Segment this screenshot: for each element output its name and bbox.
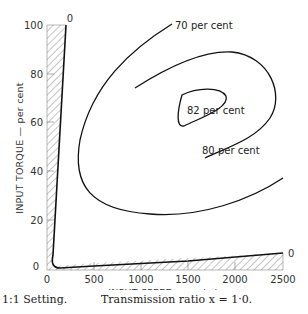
caption-setting: 1:1 Setting. xyxy=(2,293,67,306)
contour-70 xyxy=(78,24,283,215)
contour-label-82: 82 per cent xyxy=(187,105,245,116)
x-tick-label: 2000 xyxy=(222,274,247,285)
y-tick-label: 60 xyxy=(30,117,43,128)
x-tick-label: 2500 xyxy=(270,274,295,285)
contour-label-0-right: 0 xyxy=(288,248,294,259)
y-tick-label: 100 xyxy=(24,20,43,31)
caption-transmission-ratio: Transmission ratio x = 1·0. xyxy=(101,293,252,306)
efficiency-contour-chart: 100 80 60 40 20 0 0 500 1000 1500 2000 2… xyxy=(0,0,308,290)
x-tick-label: 500 xyxy=(84,274,103,285)
y-tick-label: 40 xyxy=(30,166,43,177)
x-axis-title: INPUT SPEED —rev/min xyxy=(108,287,223,290)
x-tick-label: 1500 xyxy=(175,274,200,285)
x-tick-labels: 0 500 1000 1500 2000 2500 xyxy=(44,274,296,285)
y-axis-title: INPUT TORQUE — per cent xyxy=(14,82,25,214)
contour-label-0-top: 0 xyxy=(67,13,73,24)
y-tick-labels: 100 80 60 40 20 0 xyxy=(24,20,43,272)
y-tick-label: 80 xyxy=(30,69,43,80)
contour-label-80: 80 per cent xyxy=(202,145,260,156)
x-tick-label: 1000 xyxy=(128,274,153,285)
contour-label-70: 70 per cent xyxy=(175,20,233,31)
y-tick-label: 0 xyxy=(33,261,39,272)
x-tick-label: 0 xyxy=(44,274,50,285)
y-tick-label: 20 xyxy=(30,215,43,226)
